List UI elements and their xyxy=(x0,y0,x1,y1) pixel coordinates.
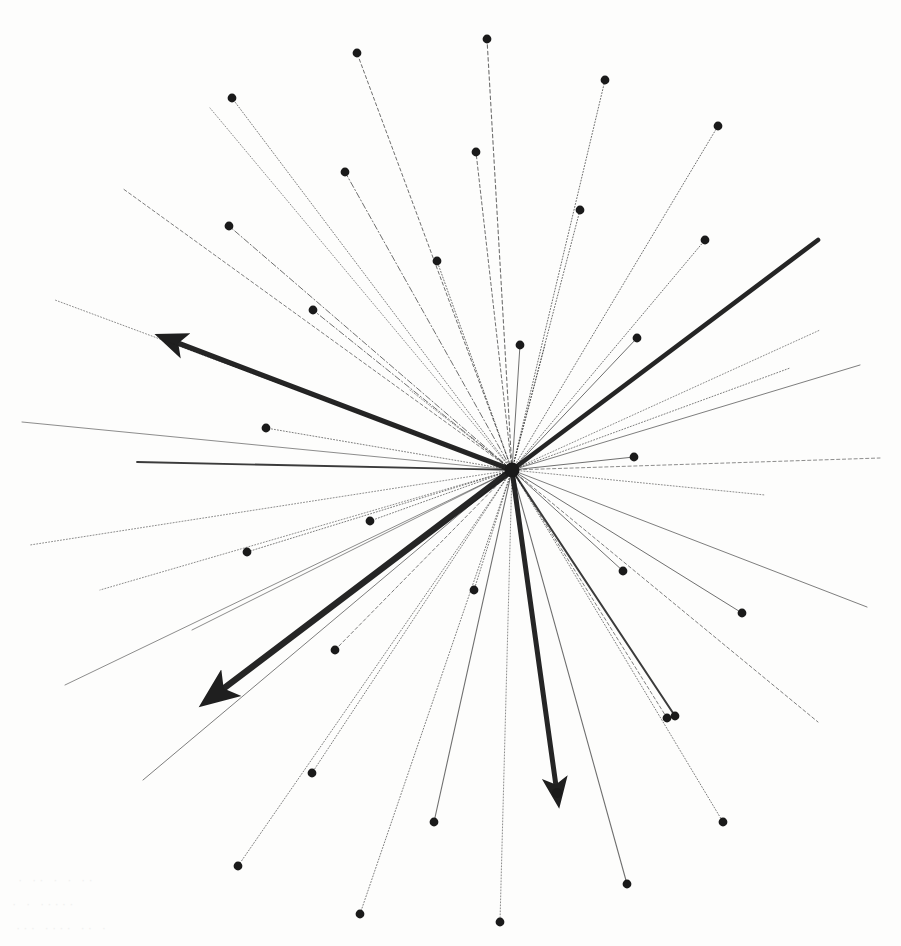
ray-r30 xyxy=(100,470,512,590)
endpoint-dots-layer xyxy=(225,35,747,927)
ray-r17 xyxy=(266,428,512,470)
ray-r32 xyxy=(65,470,512,685)
ray-r53 xyxy=(210,108,512,470)
ray-r44 xyxy=(512,470,667,718)
ray-r46 xyxy=(512,470,623,571)
ray-r07 xyxy=(476,152,512,470)
ray-r28 xyxy=(370,470,512,521)
ray-r35 xyxy=(143,470,512,780)
ray-r42 xyxy=(512,470,627,884)
ray-r37 xyxy=(312,470,512,773)
endpoint-dot-r43 xyxy=(671,712,680,721)
ray-r38 xyxy=(360,470,512,914)
endpoint-dot-r28 xyxy=(366,517,375,526)
endpoint-dot-r06 xyxy=(341,168,350,177)
endpoint-dot-r08 xyxy=(576,206,585,215)
ray-r48 xyxy=(512,470,867,607)
endpoint-dot-r24 xyxy=(630,453,639,462)
endpoint-dot-r46 xyxy=(619,567,628,576)
endpoint-dot-r44 xyxy=(663,714,672,723)
ray-r40 xyxy=(500,470,512,922)
endpoint-dot-r05 xyxy=(228,94,237,103)
ray-r43 xyxy=(512,470,675,716)
endpoint-dot-r11 xyxy=(309,306,318,315)
endpoint-dot-r42 xyxy=(623,880,632,889)
endpoint-dot-r01 xyxy=(353,49,362,58)
ray-r12 xyxy=(437,261,512,470)
endpoint-dot-r41 xyxy=(552,788,562,798)
endpoint-dot-r07 xyxy=(472,148,481,157)
ray-r23 xyxy=(512,365,860,470)
hub-origin-marker xyxy=(505,463,520,478)
ray-r10 xyxy=(229,226,512,470)
ray-r21 xyxy=(137,462,512,470)
rays-layer xyxy=(22,39,880,922)
radial-diagram-figure: · ·· · · ·· · · ····· ··· ···· ·· · xyxy=(0,0,901,946)
endpoint-dot-r49 xyxy=(719,818,728,827)
endpoint-dot-r36 xyxy=(234,862,243,871)
endpoint-dot-r09 xyxy=(701,236,710,245)
endpoint-dot-r39 xyxy=(430,818,439,827)
endpoint-dot-r03 xyxy=(601,76,610,85)
ray-r29 xyxy=(30,470,512,545)
ray-r04 xyxy=(512,126,718,470)
endpoint-dot-r45 xyxy=(738,609,747,618)
ray-r02 xyxy=(487,39,512,470)
ray-r41 xyxy=(512,470,557,793)
ray-r34 xyxy=(335,470,512,650)
endpoint-dot-r17 xyxy=(262,424,271,433)
endpoint-dot-r38 xyxy=(356,910,365,919)
ray-r06 xyxy=(345,172,512,470)
endpoint-dot-r02 xyxy=(483,35,492,44)
endpoint-dot-r04 xyxy=(714,122,723,131)
ray-r27 xyxy=(247,470,512,552)
ray-r31 xyxy=(192,470,512,630)
ray-r19 xyxy=(55,300,512,470)
endpoint-dot-r52 xyxy=(470,586,479,595)
endpoint-dot-r15 xyxy=(516,341,525,350)
ray-r26 xyxy=(512,470,765,495)
radial-chart-canvas xyxy=(0,0,901,946)
ray-r11 xyxy=(313,310,512,470)
ray-r47 xyxy=(512,470,818,722)
ray-r22 xyxy=(512,368,790,470)
ray-r33 xyxy=(215,470,512,695)
ray-r16 xyxy=(122,188,512,470)
endpoint-dot-r27 xyxy=(243,548,252,557)
ray-r09 xyxy=(512,240,705,470)
endpoint-dot-r13 xyxy=(633,334,642,343)
ray-r13 xyxy=(512,338,637,470)
ray-r14 xyxy=(512,240,818,470)
endpoint-dot-r12 xyxy=(433,257,442,266)
endpoint-dot-r40 xyxy=(496,918,505,927)
ray-r45 xyxy=(512,470,742,613)
ray-r36 xyxy=(238,470,512,866)
endpoint-dot-r10 xyxy=(225,222,234,231)
ray-r54 xyxy=(512,330,820,470)
endpoint-dot-r37 xyxy=(308,769,317,778)
hub-layer xyxy=(505,463,520,478)
ray-r49 xyxy=(512,470,723,822)
endpoint-dot-r34 xyxy=(331,646,340,655)
